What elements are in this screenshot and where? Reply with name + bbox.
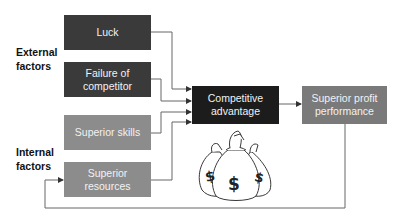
arrow-failure-to-advantage bbox=[151, 79, 191, 101]
arrow-luck-to-advantage bbox=[151, 32, 191, 89]
arrow-resources-to-advantage bbox=[151, 122, 191, 180]
connector-lines: $ $ $ bbox=[0, 0, 398, 220]
arrow-feedback-profit-to-resources bbox=[45, 124, 345, 208]
dollar-center-icon: $ bbox=[228, 174, 240, 194]
